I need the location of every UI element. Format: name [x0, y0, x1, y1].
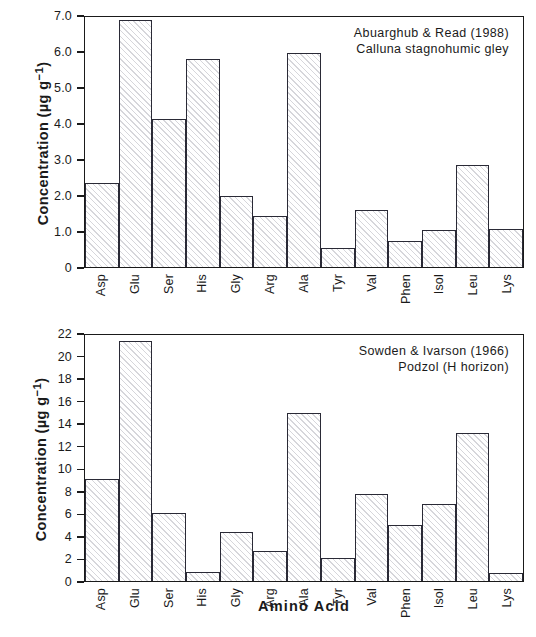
bar-slot: [456, 17, 490, 267]
plot-area-top: Abuarghub & Read (1988) Calluna stagnohu…: [84, 16, 524, 268]
bar-slot: [152, 335, 186, 581]
x-label-slot: Phen: [389, 270, 423, 324]
x-label-slot: Asp: [84, 270, 118, 324]
y-tick-mark: [77, 267, 84, 268]
y-tick-mark: [77, 559, 84, 560]
bar-series-top: [85, 17, 523, 267]
x-tick-label-val: Val: [365, 274, 378, 292]
bar-slot: [422, 17, 456, 267]
y-axis-title-top-superscript: −1: [33, 67, 45, 81]
x-label-slot: Ser: [152, 270, 186, 324]
bar-slot: [119, 17, 153, 267]
plot-area-bottom: Sowden & Ivarson (1966) Podzol (H horizo…: [84, 334, 524, 582]
y-tick-label: 14: [58, 416, 72, 432]
bar-slot: [287, 335, 321, 581]
x-label-slot: Glu: [118, 270, 152, 324]
y-tick-label: 7.0: [54, 8, 72, 24]
bar-slot: [220, 17, 254, 267]
x-label-slot: Ala: [287, 270, 321, 324]
x-tick-label-phen: Phen: [399, 274, 412, 304]
y-tick-mark: [77, 581, 84, 582]
x-label-slot: Leu: [456, 270, 490, 324]
y-axis-title-top: Concentration (µg g−1): [33, 13, 52, 273]
bar-slot: [85, 335, 119, 581]
bar-isol: [422, 230, 456, 267]
x-tick-label-glu: Glu: [128, 274, 141, 294]
bar-isol: [422, 504, 456, 581]
y-tick-mark: [77, 514, 84, 515]
bar-slot: [152, 17, 186, 267]
bar-ser: [152, 513, 186, 581]
y-axis-title-bottom-close: ): [33, 378, 49, 383]
amino-acid-concentration-figure: Concentration (µg g−1) 01.02.03.04.05.06…: [0, 0, 536, 637]
bar-slot: [85, 17, 119, 267]
y-tick-label: 0: [65, 260, 72, 276]
y-tick-label: 12: [58, 439, 72, 455]
y-axis-title-bottom-superscript: −1: [31, 383, 43, 397]
bar-phen: [388, 241, 422, 267]
y-axis-title-top-close: ): [35, 62, 51, 67]
y-tick-mark: [77, 469, 84, 470]
y-tick-mark: [77, 333, 84, 334]
x-label-slot: Arg: [253, 270, 287, 324]
y-tick-mark: [77, 401, 84, 402]
bar-ser: [152, 119, 186, 267]
bar-lys: [489, 229, 523, 267]
bar-slot: [321, 17, 355, 267]
y-tick-label: 5.0: [54, 80, 72, 96]
y-tick-label: 8: [65, 484, 72, 500]
bar-slot: [220, 335, 254, 581]
bar-his: [186, 572, 220, 581]
x-label-slot: Isol: [422, 270, 456, 324]
y-tick-label: 2.0: [54, 188, 72, 204]
x-tick-label-ser: Ser: [162, 274, 175, 294]
y-tick-label: 4: [65, 529, 72, 545]
bar-slot: [119, 335, 153, 581]
bar-series-bottom: [85, 335, 523, 581]
bar-asp: [85, 479, 119, 581]
bar-slot: [355, 17, 389, 267]
y-tick-mark: [77, 491, 84, 492]
y-tick-mark: [77, 378, 84, 379]
x-tick-label-tyr: Tyr: [331, 274, 344, 292]
y-tick-label: 0: [65, 574, 72, 590]
bar-val: [355, 210, 389, 268]
x-axis-labels-top: AspGluSerHisGlyArgAlaTyrValPhenIsolLeuLy…: [84, 270, 524, 324]
bar-arg: [253, 216, 287, 267]
y-tick-mark: [77, 423, 84, 424]
x-tick-label-arg: Arg: [264, 274, 277, 294]
x-tick-label-his: His: [196, 274, 209, 293]
bar-ala: [287, 53, 321, 267]
x-tick-label-ala: Ala: [297, 274, 310, 293]
y-tick-label: 10: [58, 461, 72, 477]
y-tick-mark: [77, 123, 84, 124]
chart-panel-bottom: Concentration (µg g−1) 02468101214161820…: [0, 320, 536, 637]
bar-val: [355, 494, 389, 581]
y-tick-mark: [77, 159, 84, 160]
bar-tyr: [321, 248, 355, 267]
bar-slot: [456, 335, 490, 581]
x-tick-label-gly: Gly: [230, 274, 243, 293]
x-tick-label-lys: Lys: [501, 274, 514, 294]
bar-phen: [388, 525, 422, 581]
bar-gly: [220, 196, 254, 267]
bar-ala: [287, 413, 321, 581]
bar-gly: [220, 532, 254, 581]
x-tick-label-leu: Leu: [467, 274, 480, 295]
y-tick-mark: [77, 446, 84, 447]
y-tick-mark: [77, 231, 84, 232]
bar-slot: [489, 335, 523, 581]
x-tick-label-isol: Isol: [433, 274, 446, 294]
bar-arg: [253, 551, 287, 581]
y-tick-mark: [77, 87, 84, 88]
y-tick-label: 6: [65, 506, 72, 522]
y-axis-title-bottom: Concentration (µg g−1): [31, 329, 50, 589]
y-tick-label: 1.0: [54, 224, 72, 240]
bar-leu: [456, 433, 490, 581]
bar-slot: [489, 17, 523, 267]
x-label-slot: His: [186, 270, 220, 324]
bar-glu: [119, 20, 153, 267]
y-tick-label: 22: [58, 326, 72, 342]
bar-slot: [388, 17, 422, 267]
y-tick-label: 2: [65, 551, 72, 567]
